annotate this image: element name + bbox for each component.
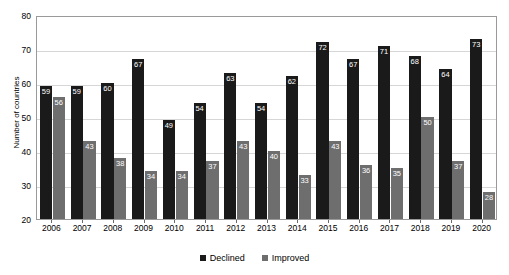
x-tick-label: 2009	[134, 223, 153, 233]
bar-group: 5943	[68, 17, 99, 219]
bar-value-label: 43	[237, 142, 249, 151]
x-tick-label: 2016	[349, 223, 368, 233]
bar-improved-2007: 43	[83, 141, 95, 219]
chart-legend: DeclinedImproved	[0, 253, 509, 263]
bar-value-label: 38	[114, 159, 126, 168]
bar-improved-2015: 43	[329, 141, 341, 219]
bar-group: 6038	[98, 17, 129, 219]
bar-value-label: 54	[194, 104, 206, 113]
bar-value-label: 72	[316, 43, 328, 52]
bar-group: 7243	[314, 17, 345, 219]
bar-declined-2013: 54	[255, 103, 267, 219]
bar-group: 6850	[406, 17, 437, 219]
bar-value-label: 64	[439, 70, 451, 79]
y-tick-label: 80	[8, 11, 31, 21]
legend-swatch-icon	[200, 255, 206, 261]
x-axis-tick-labels: 2006200720082009201020112012201320142015…	[36, 223, 497, 237]
bar-improved-2008: 38	[114, 158, 126, 219]
bar-value-label: 54	[255, 104, 267, 113]
bar-group: 5956	[37, 17, 68, 219]
bar-value-label: 63	[224, 74, 236, 83]
bar-value-label: 62	[286, 77, 298, 86]
bar-value-label: 37	[452, 162, 464, 171]
bar-value-label: 40	[268, 152, 280, 161]
bar-group: 7328	[467, 17, 498, 219]
bar-improved-2017: 35	[391, 168, 403, 219]
bar-value-label: 67	[132, 60, 144, 69]
bar-declined-2006: 59	[40, 86, 52, 219]
bar-improved-2018: 50	[421, 117, 433, 219]
bar-improved-2019: 37	[452, 161, 464, 219]
bar-improved-2011: 37	[206, 161, 218, 219]
plot-area: 5956594360386734493454376343544062337243…	[36, 16, 497, 220]
bar-group: 4934	[160, 17, 191, 219]
x-tick-label: 2015	[318, 223, 337, 233]
y-tick-label: 20	[8, 215, 31, 225]
x-tick-label: 2017	[380, 223, 399, 233]
bar-value-label: 56	[53, 98, 65, 107]
bar-declined-2015: 72	[316, 42, 328, 219]
bar-declined-2019: 64	[439, 69, 451, 219]
bar-improved-2020: 28	[483, 192, 495, 219]
bar-improved-2014: 33	[299, 175, 311, 219]
bar-value-label: 34	[176, 172, 188, 181]
bar-value-label: 59	[71, 87, 83, 96]
x-tick-label: 2013	[257, 223, 276, 233]
bar-value-label: 49	[163, 121, 175, 130]
legend-label: Declined	[210, 253, 245, 263]
bar-group: 6343	[221, 17, 252, 219]
bar-declined-2011: 54	[194, 103, 206, 219]
bar-improved-2016: 36	[360, 165, 372, 219]
bar-group: 6437	[437, 17, 468, 219]
bar-value-label: 60	[101, 84, 113, 93]
bar-value-label: 35	[391, 169, 403, 178]
bar-group: 6734	[129, 17, 160, 219]
bar-value-label: 67	[347, 60, 359, 69]
bar-declined-2007: 59	[71, 86, 83, 219]
x-tick-label: 2010	[165, 223, 184, 233]
bar-group: 6736	[344, 17, 375, 219]
bar-declined-2018: 68	[409, 56, 421, 219]
bars-layer: 5956594360386734493454376343544062337243…	[37, 17, 496, 219]
bar-chart: Number of countries 20304050607080 59565…	[0, 0, 509, 275]
bar-declined-2008: 60	[101, 83, 113, 219]
bar-improved-2006: 56	[53, 97, 65, 219]
bar-value-label: 34	[145, 172, 157, 181]
legend-item-improved[interactable]: Improved	[262, 253, 310, 263]
bar-value-label: 43	[83, 142, 95, 151]
bar-improved-2009: 34	[145, 171, 157, 219]
bar-declined-2010: 49	[163, 120, 175, 219]
bar-value-label: 36	[360, 166, 372, 175]
bar-value-label: 33	[299, 176, 311, 185]
bar-value-label: 28	[483, 193, 495, 202]
bar-value-label: 43	[329, 142, 341, 151]
legend-swatch-icon	[262, 255, 268, 261]
bar-improved-2010: 34	[176, 171, 188, 219]
bar-declined-2012: 63	[224, 73, 236, 219]
legend-item-declined[interactable]: Declined	[200, 253, 245, 263]
bar-group: 7135	[375, 17, 406, 219]
x-tick-label: 2007	[73, 223, 92, 233]
x-tick-label: 2011	[196, 223, 214, 233]
x-tick-label: 2019	[441, 223, 460, 233]
x-tick-label: 2006	[42, 223, 61, 233]
legend-label: Improved	[272, 253, 310, 263]
bar-improved-2012: 43	[237, 141, 249, 219]
bar-value-label: 68	[409, 57, 421, 66]
bar-value-label: 37	[206, 162, 218, 171]
x-tick-label: 2008	[103, 223, 122, 233]
bar-improved-2013: 40	[268, 151, 280, 219]
bar-group: 5440	[252, 17, 283, 219]
bar-value-label: 73	[470, 40, 482, 49]
x-tick-label: 2012	[226, 223, 245, 233]
bar-declined-2020: 73	[470, 39, 482, 219]
x-tick-label: 2020	[472, 223, 491, 233]
bar-value-label: 50	[421, 118, 433, 127]
bar-declined-2014: 62	[286, 76, 298, 219]
y-tick-label: 30	[8, 181, 31, 191]
bar-group: 5437	[191, 17, 222, 219]
bar-value-label: 59	[40, 87, 52, 96]
bar-declined-2009: 67	[132, 59, 144, 219]
bar-value-label: 71	[378, 47, 390, 56]
y-axis-title: Number of countries	[12, 43, 21, 183]
